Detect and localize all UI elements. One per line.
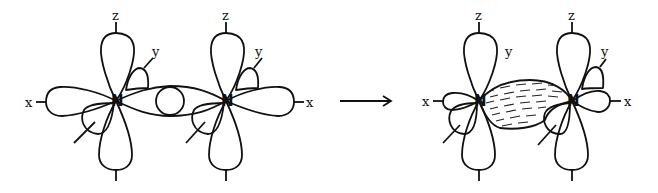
y-label: y xyxy=(600,44,609,59)
pz-lower-lobe xyxy=(99,101,132,170)
atom-n1-orbitals: z x y xyxy=(25,8,160,181)
x-label: x xyxy=(306,95,314,110)
z-label: z xyxy=(568,8,575,23)
pz-lower-lobe xyxy=(462,101,495,170)
x-label: x xyxy=(422,94,430,109)
pz-upper-lobe xyxy=(211,33,244,101)
y-axis-tick xyxy=(254,58,262,68)
py-upper-lobe xyxy=(582,67,603,89)
px-overlap-before xyxy=(116,86,226,116)
orbital-diagram: z x y N z x y N xyxy=(0,0,658,193)
px-right-lobe xyxy=(226,87,294,116)
pz-upper-lobe xyxy=(557,33,590,101)
sigma-bond-hatching xyxy=(486,83,562,126)
overlap-node xyxy=(156,87,184,115)
x-label: x xyxy=(25,95,33,110)
atom-n3: N xyxy=(474,92,487,110)
py-lower-lobe xyxy=(192,103,224,134)
z-label: z xyxy=(112,8,119,23)
z-label: z xyxy=(475,8,482,23)
px-facing-lobes xyxy=(116,86,226,116)
y-label: y xyxy=(151,44,160,59)
x-label: x xyxy=(624,94,632,109)
px-left-lobe xyxy=(46,87,116,116)
diagram-canvas: z x y N z x y N xyxy=(0,0,658,193)
atom-n3-orbitals: z x y xyxy=(422,8,513,181)
pz-lower-lobe xyxy=(209,101,242,170)
y-axis-tick xyxy=(144,58,153,68)
y-label: y xyxy=(504,44,513,59)
y-axis-tick xyxy=(600,59,606,67)
pz-lower-lobe xyxy=(555,101,588,170)
pz-upper-lobe xyxy=(101,33,134,101)
atom-n4: N xyxy=(567,92,580,110)
atom-n1: N xyxy=(111,92,124,110)
atom-n4-orbitals: z x y xyxy=(538,8,632,181)
atom-n2-orbitals: z x y xyxy=(186,8,314,181)
y-label: y xyxy=(254,44,263,59)
reaction-arrow xyxy=(340,96,391,106)
atom-n2: N xyxy=(221,92,234,110)
z-label: z xyxy=(222,8,229,23)
